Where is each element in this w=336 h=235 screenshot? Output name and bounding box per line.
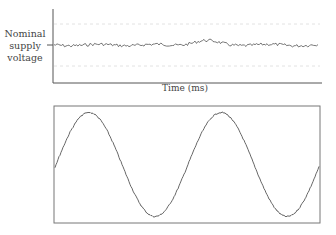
bottom-chart [54, 106, 320, 223]
top-chart [47, 9, 322, 83]
voltage-trace [54, 39, 318, 47]
plot-frame [54, 106, 320, 223]
charts [0, 0, 336, 235]
sine-trace [55, 112, 319, 217]
